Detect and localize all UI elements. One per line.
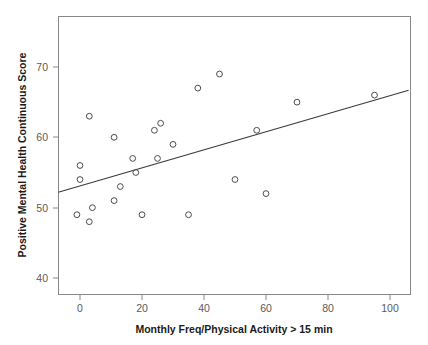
data-point [186,212,192,218]
data-point [217,71,223,77]
data-point [111,198,117,204]
data-point [155,156,161,162]
x-tick-label-80: 80 [322,302,334,314]
y-tick-label-50: 50 [36,202,48,214]
data-point [195,85,201,91]
x-tick-label-100: 100 [381,302,399,314]
x-axis-title: Monthly Freq/Physical Activity > 15 min [135,323,332,335]
data-point [86,219,92,225]
data-point [372,92,378,98]
y-axis-tick-labels: 70 60 50 40 [36,61,48,284]
x-tick-label-40: 40 [198,302,210,314]
data-point [294,99,300,105]
data-point [77,163,83,169]
x-axis-ticks [80,295,390,301]
data-point [86,113,92,119]
data-point [170,141,176,147]
data-point [254,127,260,133]
data-point [139,212,145,218]
data-point [77,177,83,183]
data-point [232,177,238,183]
x-tick-label-60: 60 [260,302,272,314]
plot-frame [59,17,411,295]
x-tick-label-0: 0 [77,302,83,314]
y-tick-label-40: 40 [36,272,48,284]
data-point [111,134,117,140]
y-axis-title: Positive Mental Health Continuous Score [16,52,28,257]
data-point [263,191,269,197]
data-point [158,120,164,126]
scatter-plot-figure: 70 60 50 40 0 20 40 60 80 100 Monthly Fr… [0,0,428,345]
x-tick-label-20: 20 [136,302,148,314]
data-points-group [74,71,377,225]
y-tick-label-70: 70 [36,61,48,73]
data-point [117,184,123,190]
data-point [133,170,139,176]
plot-canvas: 70 60 50 40 0 20 40 60 80 100 Monthly Fr… [0,0,428,345]
y-tick-label-60: 60 [36,131,48,143]
data-point [130,156,136,162]
x-axis-tick-labels: 0 20 40 60 80 100 [77,302,399,314]
data-point [90,205,96,211]
y-axis-ticks [53,67,59,278]
data-point [152,127,158,133]
data-point [74,212,80,218]
